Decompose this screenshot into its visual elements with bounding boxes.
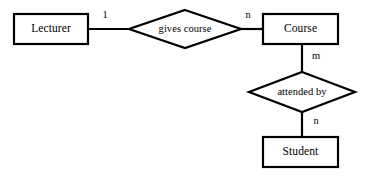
relationship-label-attended-by: attended by [277, 87, 326, 98]
relationship-label-gives-course: gives course [159, 24, 212, 35]
cardinality-label-lecturer-gives-course: 1 [102, 10, 107, 21]
cardinality-label-course-attended-by: m [312, 51, 320, 62]
cardinality-label-gives-course-course: n [245, 10, 250, 21]
cardinality-label-attended-by-student: n [313, 116, 318, 127]
entity-label-lecturer: Lecturer [31, 23, 71, 35]
entity-label-course: Course [284, 23, 317, 35]
entity-label-student: Student [283, 146, 319, 158]
er-diagram-canvas: Lecturer Course Student gives course att… [0, 0, 365, 178]
